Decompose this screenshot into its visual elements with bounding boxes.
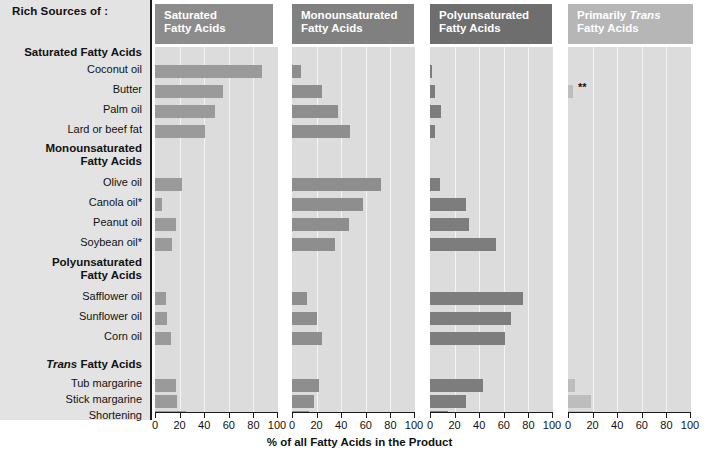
row-label-peanut-oil: Peanut oil [93,216,142,228]
x-axis-tick-label: 0 [417,419,443,431]
label-column-divider [150,0,152,420]
x-axis-tick-label: 40 [191,419,217,431]
rich-sources-title: Rich Sources of : [12,5,108,17]
x-axis-tick [366,413,367,418]
x-axis-tick [528,413,529,418]
panel-header-polyunsaturated: Polyunsaturated Fatty Acids [430,4,552,44]
x-axis-tick-label: 40 [604,419,630,431]
bar-sunflower-oil [430,312,511,325]
x-axis-tick-label: 60 [629,419,655,431]
x-axis-line [430,412,553,413]
bar-coconut-oil [155,65,262,78]
bar-peanut-oil [292,218,349,231]
row-label-shortening: Shortening [89,409,142,421]
x-axis-tick [292,413,293,418]
bar-safflower-oil [292,292,307,305]
bar-tub-margarine [292,379,319,392]
bar-butter [568,85,573,98]
x-axis-tick [204,413,205,418]
gridline [204,47,205,412]
plot-area-polyunsaturated [430,47,553,412]
x-axis-tick-label: 80 [515,419,541,431]
x-axis-tick [617,413,618,418]
bar-safflower-oil [155,292,166,305]
bar-butter [292,85,322,98]
gridline [390,47,391,412]
plot-area-saturated [155,47,278,412]
bar-stick-margarine [292,395,314,408]
x-axis-tick-label: 0 [279,419,305,431]
panel-header-saturated: Saturated Fatty Acids [155,4,273,44]
x-axis-tick [253,413,254,418]
x-axis-tick [430,413,431,418]
bar-lard-or-beef-fat [292,125,350,138]
bar-sunflower-oil [155,312,167,325]
row-label-coconut-oil: Coconut oil [87,63,142,75]
bar-palm-oil [430,105,441,118]
x-axis-tick [479,413,480,418]
bar-palm-oil [155,105,215,118]
x-axis-tick [277,413,278,418]
x-axis-tick-label: 60 [216,419,242,431]
x-axis-tick [642,413,643,418]
gridline [366,47,367,412]
x-axis-tick [690,413,691,418]
x-axis-tick [155,413,156,418]
gridline [528,47,529,412]
x-axis-tick-label: 0 [555,419,581,431]
bar-stick-margarine [430,395,466,408]
bar-canola-oil- [430,198,466,211]
bar-sunflower-oil [292,312,317,325]
footnote-marker: ** [578,81,587,93]
bar-corn-oil [292,332,322,345]
bar-olive-oil [430,178,440,191]
bar-tub-margarine [430,379,483,392]
row-label-sunflower-oil: Sunflower oil [79,310,142,322]
row-label-stick-margarine: Stick margarine [66,393,142,405]
x-axis-tick [552,413,553,418]
bar-corn-oil [155,332,171,345]
group-heading-saturated: Saturated Fatty Acids [24,46,142,59]
panel-saturated: Saturated Fatty Acids 020406080100 [155,0,285,420]
x-axis-line [568,412,691,413]
x-axis-tick-label: 20 [442,419,468,431]
panel-polyunsaturated: Polyunsaturated Fatty Acids 020406080100 [430,0,560,420]
group-heading-trans-italic: Trans [46,358,77,370]
x-axis-tick [666,413,667,418]
gridline [229,47,230,412]
bar-stick-margarine [568,395,591,408]
bar-tub-margarine [155,379,176,392]
bar-canola-oil- [155,198,162,211]
x-axis-tick-label: 40 [466,419,492,431]
row-label-tub-margarine: Tub margarine [71,377,142,389]
x-axis-tick-label: 80 [240,419,266,431]
row-label-olive-oil: Olive oil [103,176,142,188]
x-axis-tick-label: 20 [167,419,193,431]
row-label-column: Rich Sources of : Saturated Fatty Acids … [0,0,152,420]
bar-corn-oil [430,332,505,345]
plot-area-monounsaturated [292,47,415,412]
row-label-canola-oil: Canola oil* [89,196,142,208]
gridline [593,47,594,412]
bar-soybean-oil- [155,238,172,251]
fatty-acid-chart: Rich Sources of : Saturated Fatty Acids … [0,0,719,457]
bar-safflower-oil [430,292,523,305]
bar-tub-margarine [568,379,575,392]
x-axis-tick-label: 80 [653,419,679,431]
x-axis-tick-label: 80 [377,419,403,431]
x-axis-tick [414,413,415,418]
group-heading-trans: Trans Fatty Acids [46,358,142,371]
x-axis-line [292,412,415,413]
bar-coconut-oil [430,65,432,78]
row-label-lard-or-beef-fat: Lard or beef fat [67,123,142,135]
bar-olive-oil [155,178,182,191]
bar-canola-oil- [292,198,363,211]
x-axis-tick [568,413,569,418]
panel-header-monounsaturated: Monounsaturated Fatty Acids [292,4,414,44]
gridline [666,47,667,412]
x-axis-tick [455,413,456,418]
bar-peanut-oil [155,218,176,231]
gridline [180,47,181,412]
x-axis-tick [504,413,505,418]
gridline [617,47,618,412]
